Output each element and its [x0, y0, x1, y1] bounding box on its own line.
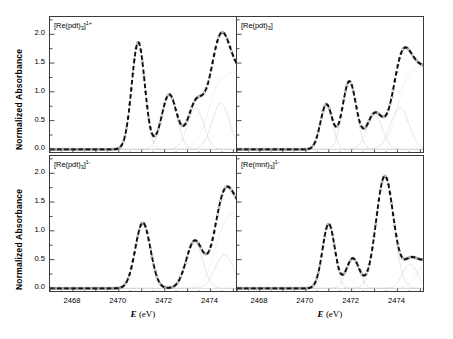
- y-tick-label: 0.5: [19, 254, 45, 263]
- plot-panel-top-left: [49, 16, 237, 153]
- experimental-data-points: [50, 31, 237, 150]
- x-axis-label: E (eV): [113, 309, 173, 319]
- x-tick-label: 2472: [334, 296, 368, 305]
- spectrum-plot: [237, 156, 424, 292]
- total-fit-curve: [237, 176, 424, 288]
- fit-component-gaussian-4: [50, 103, 237, 149]
- formula-base: [Re(pdt): [54, 160, 81, 169]
- panel-label-bottom-left: [Re(pdt)3]1-: [54, 159, 91, 170]
- y-tick-label: 0.0: [19, 282, 45, 291]
- y-tick-label: 1.0: [19, 86, 45, 95]
- x-tick-label: 2474: [379, 296, 413, 305]
- formula-base: [Re(pdt): [54, 21, 81, 30]
- x-tick-label: 2474: [192, 296, 226, 305]
- formula-base: [Re(pdt): [241, 21, 268, 30]
- fit-component-gaussian-4: [237, 264, 424, 288]
- formula-charge: 1+: [86, 20, 92, 26]
- experimental-data-points: [50, 186, 237, 290]
- y-tick-label: 1.5: [19, 57, 45, 66]
- y-tick-label: 1.5: [19, 196, 45, 205]
- x-axis-unit: (eV): [324, 309, 343, 319]
- fit-component-gaussian-3: [50, 108, 237, 149]
- spectrum-plot: [50, 17, 237, 153]
- fit-component-gaussian-4: [237, 108, 424, 149]
- fit-component-gaussian-2: [50, 95, 237, 150]
- y-tick-label: 2.0: [19, 167, 45, 176]
- formula-charge: 1-: [86, 159, 91, 165]
- experimental-data-points: [237, 175, 424, 290]
- plot-panel-bottom-left: [49, 155, 237, 292]
- panel-label-top-left: [Re(pdt)3]1+: [54, 20, 92, 31]
- formula-base: [Re(mnt): [241, 160, 270, 169]
- y-tick-label: 0.0: [19, 143, 45, 152]
- spectrum-plot: [237, 17, 424, 153]
- fit-component-gaussian-3: [237, 176, 424, 288]
- fit-component-gaussian-3: [237, 115, 424, 150]
- formula-charge: 1-: [275, 159, 280, 165]
- experimental-data-points: [237, 46, 424, 150]
- panel-label-top-right: [Re(pdt)3]: [241, 20, 273, 31]
- y-tick-label: 0.5: [19, 115, 45, 124]
- plot-panel-bottom-right: [236, 155, 424, 292]
- axis-ticks: [50, 20, 233, 153]
- total-fit-curve: [237, 47, 424, 149]
- x-tick-label: 2470: [288, 296, 322, 305]
- fit-component-gaussian-3: [50, 255, 237, 288]
- panel-label-bottom-right: [Re(mnt)3]1-: [241, 159, 280, 170]
- plot-panel-top-right: [236, 16, 424, 153]
- y-tick-label: 1.0: [19, 225, 45, 234]
- spectrum-plot: [50, 156, 237, 292]
- x-tick-label: 2472: [147, 296, 181, 305]
- x-tick-label: 2468: [242, 296, 276, 305]
- x-axis-label: E (eV): [300, 309, 360, 319]
- xas-spectra-figure: Normalized AbsorbanceNormalized Absorban…: [0, 0, 453, 339]
- x-tick-label: 2470: [101, 296, 135, 305]
- x-axis-unit: (eV): [137, 309, 156, 319]
- x-tick-label: 2468: [55, 296, 89, 305]
- formula-bracket-close: ]: [271, 21, 273, 30]
- fit-component-gaussian-1: [50, 42, 237, 149]
- total-fit-curve: [50, 187, 237, 289]
- y-tick-label: 2.0: [19, 28, 45, 37]
